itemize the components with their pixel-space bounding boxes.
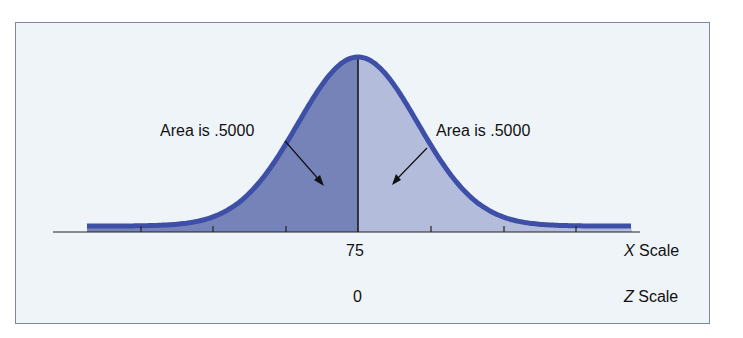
right-area-annotation: Area is .5000 <box>436 122 530 140</box>
z-scale-label: Z Scale <box>624 288 678 306</box>
curve-area-right <box>87 57 632 232</box>
x-scale-label: X Scale <box>624 242 679 260</box>
z-value-label: 0 <box>353 288 362 306</box>
left-area-annotation: Area is .5000 <box>160 122 254 140</box>
x-value-label: 75 <box>346 242 364 260</box>
